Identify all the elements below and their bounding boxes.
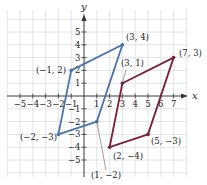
x-tick-label: −2 [52,99,65,109]
vertex-label: (3, 4) [126,32,149,42]
vertex-label: (−2, −3) [20,132,57,142]
vertex-point [57,133,61,137]
y-axis-arrow-icon [82,14,87,21]
y-axis-label: y [80,1,87,12]
y-tick-label: −4 [68,142,81,152]
vertex-point [172,56,176,60]
vertex-point [108,145,112,149]
x-axis-label: x [192,90,198,101]
vertex-label: (−1, 2) [36,65,66,75]
x-tick-label: 2 [107,99,112,109]
x-tick-label: 1 [94,99,99,109]
x-tick-label: 5 [145,99,150,109]
y-tick-label: 4 [75,40,80,50]
x-axis-arrow-icon [181,94,188,99]
x-tick-label: 3 [120,99,125,109]
vertex-label: (5, −3) [151,136,181,146]
x-tick-label: −3 [39,99,52,109]
vertex-label: (7, 3) [179,48,202,58]
vertex-point [69,69,73,73]
coordinate-plane: xy−5−4−3−2−1123456754321−1−2−3−4−5 (−1, … [0,0,207,185]
y-tick-label: −2 [68,117,81,127]
y-tick-label: −5 [68,155,81,165]
vertex-point [121,81,125,85]
vertex-point [121,43,125,47]
vertex-label: (3, 1) [121,58,144,68]
x-tick-label: 4 [132,99,137,109]
y-tick-label: 1 [75,78,80,88]
maroon-parallelogram [110,58,174,148]
x-tick-label: 7 [171,99,176,109]
x-tick-label: −5 [14,99,27,109]
vertex-point [146,133,150,137]
vertex-label: (1, −2) [91,170,121,180]
x-tick-label: −4 [27,99,40,109]
vertex-label: (2, −4) [113,151,143,161]
y-tick-label: 3 [75,53,80,63]
leader-line [97,122,106,170]
y-tick-label: −1 [68,104,81,114]
y-tick-label: 5 [75,27,80,37]
